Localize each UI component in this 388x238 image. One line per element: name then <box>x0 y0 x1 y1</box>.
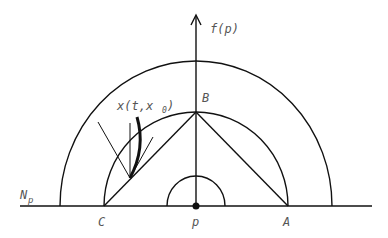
label-trajectory-main: x(t,x <box>116 99 154 113</box>
point-p <box>193 203 200 210</box>
edge-ba <box>196 112 288 206</box>
label-trajectory-close: ) <box>167 99 174 113</box>
label-manifold: N p <box>19 188 33 205</box>
label-c: C <box>98 215 106 229</box>
edge-cb <box>104 112 196 206</box>
label-b: B <box>202 91 209 105</box>
diagram-canvas: f(p) B C p A N p x(t,x 0 ) <box>0 0 388 238</box>
label-manifold-sub: p <box>27 195 33 205</box>
label-manifold-main: N <box>19 188 28 202</box>
axis-label: f(p) <box>210 22 239 36</box>
label-trajectory: x(t,x 0 ) <box>116 99 174 115</box>
label-a: A <box>282 215 290 229</box>
fan-line-left <box>98 122 130 178</box>
trajectory-curve <box>130 117 140 178</box>
label-p: p <box>191 215 199 229</box>
